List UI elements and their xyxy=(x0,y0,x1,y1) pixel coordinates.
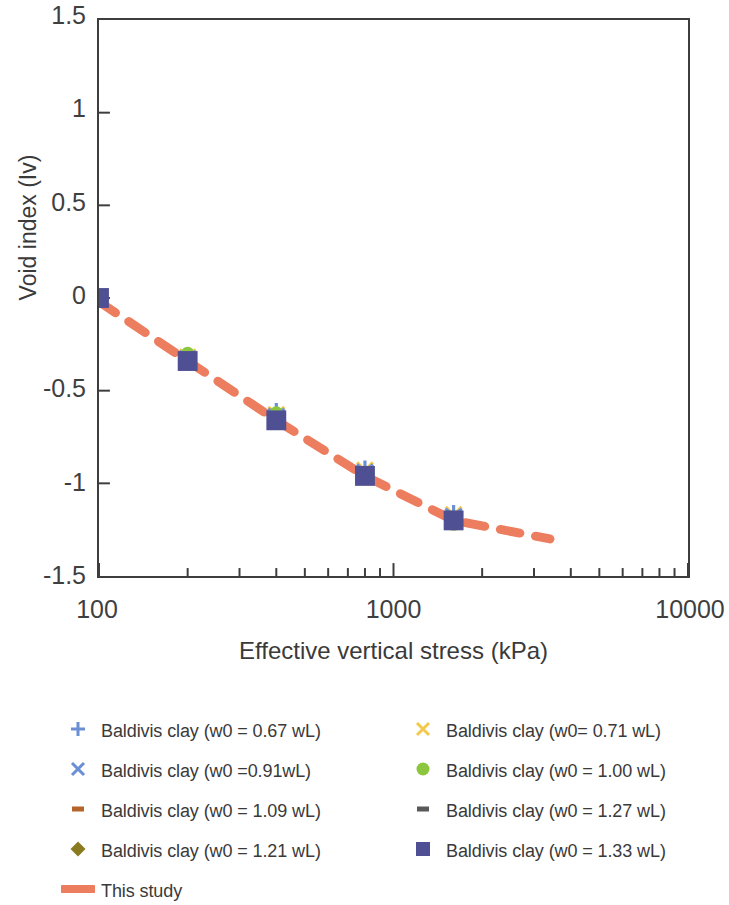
legend-item[interactable]: Baldivis clay (w0 = 1.27 wL) xyxy=(400,794,715,828)
legend-item[interactable]: Baldivis clay (w0 = 1.00 wL) xyxy=(400,754,715,788)
y-axis-tick-label: -0.5 xyxy=(20,376,86,401)
legend-label: Baldivis clay (w0 =0.91wL) xyxy=(101,761,311,782)
series-cross xyxy=(99,290,462,525)
data-point-square xyxy=(355,466,375,486)
dash-marker-icon xyxy=(406,796,440,822)
series-plus xyxy=(99,290,462,521)
x-axis-title: Effective vertical stress (kPa) xyxy=(97,637,690,665)
dashed-line-icon xyxy=(61,876,95,902)
dash-marker-icon xyxy=(61,796,95,822)
series-cross xyxy=(99,290,462,523)
legend-marker xyxy=(400,716,446,746)
data-point-square xyxy=(266,410,286,430)
data-point-square xyxy=(99,288,109,308)
legend-marker xyxy=(55,756,101,786)
legend-marker xyxy=(400,836,446,866)
legend-item[interactable]: Baldivis clay (w0 = 1.33 wL) xyxy=(400,834,715,868)
legend-label: Baldivis clay (w0 = 1.00 wL) xyxy=(446,761,666,782)
this-study-trend-line xyxy=(99,302,550,539)
legend-item[interactable]: Baldivis clay (w0 = 1.09 wL) xyxy=(55,794,400,828)
y-axis-tick-label: -1 xyxy=(20,470,86,495)
legend-marker xyxy=(400,796,446,826)
cross-marker-icon xyxy=(61,756,95,782)
legend-label: Baldivis clay (w0 = 1.21 wL) xyxy=(101,841,321,862)
legend-item[interactable]: Baldivis clay (w0 = 0.67 wL) xyxy=(55,714,400,748)
legend-item[interactable]: This study xyxy=(55,874,400,905)
legend-label: Baldivis clay (w0 = 1.33 wL) xyxy=(446,841,666,862)
legend-label: Baldivis clay (w0 = 0.67 wL) xyxy=(101,721,321,742)
legend-marker xyxy=(55,796,101,826)
legend-marker xyxy=(55,836,101,866)
legend-item[interactable]: Baldivis clay (w0= 0.71 wL) xyxy=(400,714,715,748)
circle-marker-icon xyxy=(406,756,440,782)
x-axis-tick-label: 100 xyxy=(27,595,167,624)
legend-label: This study xyxy=(101,881,182,902)
legend-marker xyxy=(55,716,101,746)
plot-canvas xyxy=(99,20,688,576)
cross-swatch xyxy=(417,723,429,735)
square-swatch xyxy=(416,842,430,856)
dash-swatch xyxy=(72,807,84,812)
legend-item[interactable]: Baldivis clay (w0 =0.91wL) xyxy=(55,754,400,788)
legend-label: Baldivis clay (w0 = 1.27 wL) xyxy=(446,801,666,822)
square-marker-icon xyxy=(406,836,440,862)
plus-swatch xyxy=(71,722,85,736)
plot-area xyxy=(97,18,690,578)
legend-marker xyxy=(55,876,101,905)
cross-swatch xyxy=(72,763,84,775)
x-axis-tick-label: 1000 xyxy=(324,595,464,624)
legend-marker xyxy=(400,756,446,786)
circle-swatch xyxy=(417,763,430,776)
x-axis-tick-label: 10000 xyxy=(620,595,729,624)
legend-item[interactable]: Baldivis clay (w0 = 1.21 wL) xyxy=(55,834,400,868)
dash-swatch xyxy=(417,807,429,812)
chart-legend: Baldivis clay (w0 = 0.67 wL)Baldivis cla… xyxy=(55,706,715,886)
y-axis-title: Void index (Iv) xyxy=(15,108,42,348)
legend-label: Baldivis clay (w0 = 1.09 wL) xyxy=(101,801,321,822)
y-axis-tick-label: -1.5 xyxy=(20,563,86,588)
data-point-square xyxy=(178,351,198,371)
data-point-square xyxy=(444,510,464,530)
y-axis-tick-label: 1.5 xyxy=(20,3,86,28)
cross-marker-icon xyxy=(406,716,440,742)
legend-label: Baldivis clay (w0= 0.71 wL) xyxy=(446,721,661,742)
diamond-marker-icon xyxy=(61,836,95,862)
diamond-swatch xyxy=(71,842,86,857)
plus-marker-icon xyxy=(61,716,95,742)
